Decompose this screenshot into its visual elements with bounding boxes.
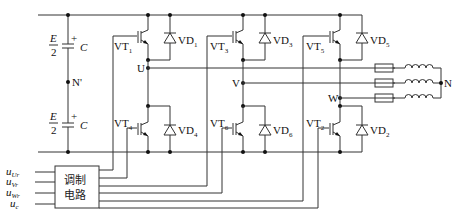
- neutral-label: N: [444, 77, 452, 89]
- svg-text:+: +: [71, 32, 77, 44]
- svg-text:2: 2: [51, 124, 57, 136]
- vd4-label: VD4: [178, 124, 198, 139]
- vt4-label: VT4: [114, 117, 133, 132]
- vt1-label: VT1: [114, 40, 133, 55]
- svg-text:C: C: [80, 41, 88, 53]
- svg-text:C: C: [80, 119, 88, 131]
- midpoint-label: N': [72, 76, 82, 88]
- phase-outputs: U V W: [137, 62, 395, 104]
- phase-u-label: U: [137, 62, 145, 74]
- svg-text:调制: 调制: [64, 174, 86, 187]
- phase-v-label: V: [232, 77, 240, 89]
- vt5-label: VT5: [306, 40, 325, 55]
- svg-text:+: +: [71, 110, 77, 122]
- vd2-label: VD2: [370, 124, 390, 139]
- vd3-label: VD3: [273, 34, 293, 49]
- phase-w-label: W: [328, 92, 339, 104]
- leg-u: [138, 13, 176, 154]
- vd6-label: VD6: [273, 124, 293, 139]
- vd5-label: VD5: [370, 34, 390, 49]
- svg-text:2: 2: [51, 46, 57, 58]
- vt6-label: VT6: [210, 117, 229, 132]
- vt3-label: VT3: [210, 40, 229, 55]
- svg-text:E: E: [49, 110, 57, 122]
- vt2-label: VT2: [306, 117, 325, 132]
- svg-text:电路: 电路: [64, 189, 86, 202]
- inverter-diagram: E 2 + C E 2 + C N': [0, 0, 460, 224]
- vd1-label: VD1: [178, 34, 198, 49]
- svg-text:E: E: [49, 32, 57, 44]
- modulation-circuit: 调制 电路 uUr uVr uWr uc: [6, 165, 99, 211]
